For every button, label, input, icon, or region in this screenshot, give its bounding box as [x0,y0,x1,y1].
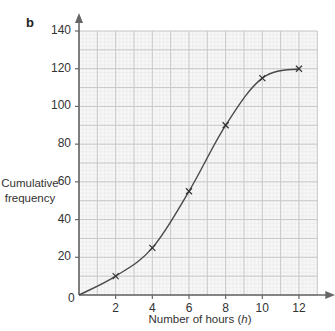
x-axis-label-prefix: Number of hours ( [149,313,242,325]
y-axis-label: Cumulative frequency [1,176,59,206]
x-axis-label: Number of hours (h) [80,313,320,325]
y-tick-label: 100 [47,98,71,112]
y-axis-label-line2: frequency [1,191,59,206]
y-tick-label: 120 [47,61,71,75]
x-tick-label: 0 [68,291,75,305]
cumulative-frequency-chart [0,0,335,331]
y-axis-label-line1: Cumulative [1,176,59,191]
y-tick-label: 80 [47,136,71,150]
y-tick-label: 20 [47,249,71,263]
y-tick-label: 140 [47,23,71,37]
y-tick-label: 40 [47,212,71,226]
x-axis-label-suffix: ) [248,313,252,325]
